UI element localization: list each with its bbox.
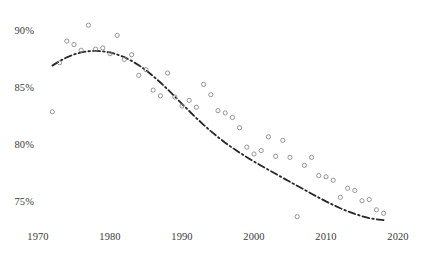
data-point	[194, 105, 198, 109]
data-point	[187, 98, 191, 102]
data-point	[252, 152, 256, 156]
data-point	[353, 188, 357, 192]
data-point	[324, 175, 328, 179]
data-point	[230, 115, 234, 119]
data-point	[331, 178, 335, 182]
x-tick-label: 1980	[85, 231, 135, 242]
data-point	[281, 138, 285, 142]
data-point	[374, 208, 378, 212]
x-tick-label: 1990	[157, 231, 207, 242]
data-point	[137, 73, 141, 77]
data-point	[115, 33, 119, 37]
data-point	[317, 174, 321, 178]
data-points-group	[50, 23, 385, 219]
x-tick-label: 2020	[373, 231, 423, 242]
data-point	[101, 46, 105, 50]
data-point	[151, 88, 155, 92]
data-point	[338, 195, 342, 199]
x-tick-label: 2000	[229, 231, 279, 242]
data-point	[302, 163, 306, 167]
data-point	[360, 199, 364, 203]
data-point	[216, 109, 220, 113]
data-point	[266, 135, 270, 139]
x-tick-label: 1970	[13, 231, 63, 242]
data-point	[50, 110, 54, 114]
data-point	[130, 53, 134, 57]
data-point	[382, 211, 386, 215]
data-point	[367, 197, 371, 201]
scatter-chart: 75%80%85%90% 197019801990200020102020	[0, 0, 424, 260]
y-tick-label: 90%	[0, 25, 34, 36]
data-point	[288, 155, 292, 159]
plot-area	[0, 0, 424, 260]
x-tick-label: 2010	[301, 231, 351, 242]
data-point	[209, 93, 213, 97]
data-point	[65, 39, 69, 43]
data-point	[86, 23, 90, 27]
y-tick-label: 85%	[0, 82, 34, 93]
y-tick-label: 75%	[0, 196, 34, 207]
data-point	[166, 71, 170, 75]
data-point	[259, 148, 263, 152]
data-point	[72, 42, 76, 46]
data-point	[310, 155, 314, 159]
data-point	[223, 111, 227, 115]
data-point	[295, 215, 299, 219]
y-tick-label: 80%	[0, 139, 34, 150]
data-point	[238, 126, 242, 130]
data-point	[158, 94, 162, 98]
data-point	[274, 154, 278, 158]
trend-line-group	[52, 51, 383, 220]
data-point	[346, 186, 350, 190]
trend-line	[52, 51, 383, 220]
data-point	[245, 145, 249, 149]
data-point	[202, 82, 206, 86]
